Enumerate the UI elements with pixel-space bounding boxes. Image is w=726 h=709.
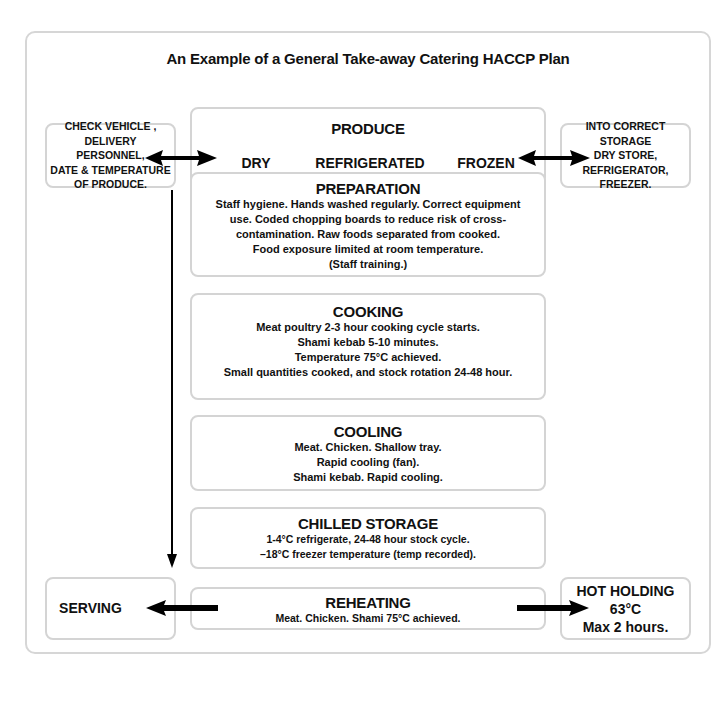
cooling-body: Meat. Chicken. Shallow tray. Rapid cooli… — [192, 440, 544, 485]
storage-line: REFRIGERATOR, — [583, 163, 669, 178]
reheating-box: REHEATING Meat. Chicken. Shami 75°C achi… — [190, 587, 546, 630]
preparation-line: contamination. Raw foods separated from … — [192, 227, 544, 242]
preparation-heading: PREPARATION — [192, 180, 544, 197]
cooking-heading: COOKING — [192, 303, 544, 320]
cooking-line: Meat poultry 2-3 hour cooking cycle star… — [192, 320, 544, 335]
storage-line: STORAGE — [600, 134, 652, 149]
preparation-box: PREPARATION Staff hygiene. Hands washed … — [190, 172, 546, 277]
preparation-line: (Staff training.) — [192, 257, 544, 272]
check-delivery-line: OF PRODUCE. — [74, 177, 147, 192]
storage-line: DRY STORE, — [594, 148, 657, 163]
chilled-storage-body: 1-4°C refrigerate, 24-48 hour stock cycl… — [192, 532, 544, 562]
cooling-line: Shami kebab. Rapid cooling. — [192, 470, 544, 485]
storage-line: INTO CORRECT — [586, 119, 666, 134]
preparation-line: Food exposure limited at room temperatur… — [192, 242, 544, 257]
left-arrow-icon — [146, 646, 147, 647]
cooking-line: Small quantities cooked, and stock rotat… — [192, 365, 544, 380]
storage-line: FREEZER. — [600, 177, 652, 192]
chilled-storage-line: –18°C freezer temperature (temp recorded… — [192, 547, 544, 562]
down-arrow-icon — [166, 190, 178, 568]
cooking-line: Shami kebab 5-10 minutes. — [192, 335, 544, 350]
cooling-box: COOLING Meat. Chicken. Shallow tray. Rap… — [190, 415, 546, 491]
double-arrow-left-icon — [145, 150, 217, 166]
preparation-body: Staff hygiene. Hands washed regularly. C… — [192, 197, 544, 272]
chilled-storage-heading: CHILLED STORAGE — [192, 515, 544, 532]
diagram-title: An Example of a General Take-away Cateri… — [25, 50, 711, 67]
chilled-storage-box: CHILLED STORAGE 1-4°C refrigerate, 24-48… — [190, 507, 546, 569]
cooking-box: COOKING Meat poultry 2-3 hour cooking cy… — [190, 293, 546, 400]
preparation-line: use. Coded chopping boards to reduce ris… — [192, 212, 544, 227]
reheating-heading: REHEATING — [192, 594, 544, 611]
check-delivery-line: CHECK VEHICLE , — [65, 119, 157, 134]
cooking-line: Temperature 75°C achieved. — [192, 350, 544, 365]
right-pointing-arrow-icon — [517, 600, 589, 616]
left-pointing-arrow-icon — [146, 600, 218, 616]
hot-holding-line: Max 2 hours. — [583, 618, 669, 636]
hot-holding-line: HOT HOLDING — [577, 582, 675, 600]
double-arrow-right-icon — [518, 150, 590, 166]
produce-heading: PRODUCE — [192, 120, 544, 137]
produce-category-dry: DRY — [241, 155, 270, 171]
cooling-heading: COOLING — [192, 423, 544, 440]
hot-holding-line: 63°C — [610, 600, 641, 618]
cooking-body: Meat poultry 2-3 hour cooking cycle star… — [192, 320, 544, 380]
check-delivery-line: PERSONNEL, — [76, 148, 144, 163]
produce-category-frozen: FROZEN — [457, 155, 515, 171]
produce-category-refrigerated: REFRIGERATED — [315, 155, 424, 171]
cooling-line: Meat. Chicken. Shallow tray. — [192, 440, 544, 455]
serving-label: SERVING — [59, 601, 122, 616]
cooling-line: Rapid cooling (fan). — [192, 455, 544, 470]
chilled-storage-line: 1-4°C refrigerate, 24-48 hour stock cycl… — [192, 532, 544, 547]
reheating-line: Meat. Chicken. Shami 75°C achieved. — [192, 611, 544, 626]
reheating-body: Meat. Chicken. Shami 75°C achieved. — [192, 611, 544, 626]
preparation-line: Staff hygiene. Hands washed regularly. C… — [192, 197, 544, 212]
check-delivery-line: DELIVERY — [84, 134, 136, 149]
